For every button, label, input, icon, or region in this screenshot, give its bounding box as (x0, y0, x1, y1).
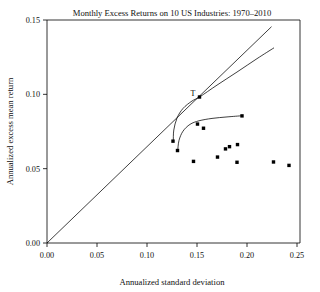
chart-figure: T 0.000.050.100.150.200.250.000.050.100.… (0, 0, 320, 292)
x-tick-label: 0.15 (190, 251, 204, 260)
data-point-marker (272, 160, 275, 163)
data-point-marker (287, 164, 290, 167)
y-tick-label: 0.15 (26, 16, 40, 25)
y-tick-label: 0.00 (26, 239, 40, 248)
x-axis-title: Annualized standard deviation (119, 277, 225, 287)
x-tick-label: 0.05 (90, 251, 104, 260)
scatter-plot: T 0.000.050.100.150.200.250.000.050.100.… (0, 0, 320, 292)
y-axis-title: Annualized excess mean return (5, 77, 15, 185)
efficient-frontier-upper (173, 48, 274, 141)
data-point-marker (202, 127, 205, 130)
y-tick-label: 0.05 (26, 165, 40, 174)
x-tick-label: 0.00 (40, 251, 54, 260)
data-point-marker (192, 160, 195, 163)
data-point-marker (224, 147, 227, 150)
data-point-marker (196, 122, 199, 125)
chart-title: Monthly Excess Returns on 10 US Industri… (73, 8, 271, 18)
y-tick-label: 0.10 (26, 90, 40, 99)
data-series (47, 27, 291, 243)
axes (43, 20, 300, 247)
data-point-marker (228, 145, 231, 148)
x-tick-label: 0.10 (140, 251, 154, 260)
x-tick-label: 0.25 (290, 251, 304, 260)
tangency-point-label: T (191, 89, 196, 98)
annotations: T (191, 89, 202, 99)
capital-market-line (47, 27, 272, 243)
data-point-marker (236, 143, 239, 146)
data-point-marker (216, 155, 219, 158)
x-tick-label: 0.20 (240, 251, 254, 260)
axis-labels: 0.000.050.100.150.200.250.000.050.100.15… (5, 8, 304, 287)
tangency-point-marker (198, 95, 201, 98)
data-point-marker (235, 161, 238, 164)
minimum-variance-frontier (178, 116, 242, 151)
